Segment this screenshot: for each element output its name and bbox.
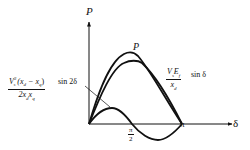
close-paren: ): [42, 77, 45, 86]
sub-f: f: [179, 73, 180, 78]
reluctance-formula-numerator: V2s (xd − xq): [8, 76, 45, 90]
fundamental-formula-denominator: xd: [166, 80, 181, 91]
sub-q: q: [32, 95, 35, 100]
tick-pi-half-numerator: π: [128, 127, 134, 135]
reluctance-formula-trailing: sin 2δ: [58, 77, 77, 86]
power-angle-plot: [0, 0, 250, 150]
fundamental-formula-trailing: sin δ: [191, 70, 206, 79]
reluctance-formula-fraction: V2s (xd − xq) 2xdxq: [8, 76, 45, 100]
sub-s: s: [13, 82, 15, 87]
fundamental-formula-numerator: VsEf: [166, 68, 181, 80]
y-axis-label: P: [86, 6, 93, 17]
reluctance-formula-denominator: 2xdxq: [8, 90, 45, 101]
sub-d: d: [174, 85, 177, 90]
tick-pi: π: [180, 120, 185, 129]
tick-pi-half-denominator: 2: [128, 135, 134, 143]
var-2x: 2x: [19, 90, 27, 99]
var-minus-x: − x: [26, 77, 39, 86]
resultant-peak-label: P: [133, 42, 139, 52]
tick-pi-half: π 2: [128, 127, 134, 143]
fundamental-formula-fraction: VsEf xd: [166, 68, 181, 91]
x-axis-label: δ: [233, 118, 238, 129]
